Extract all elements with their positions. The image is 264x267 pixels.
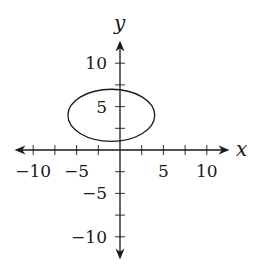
- y-tick-label: −10: [71, 227, 107, 247]
- ellipse-curve: [68, 89, 155, 141]
- y-axis-label: y: [113, 11, 126, 35]
- x-tick-label: −10: [15, 161, 51, 181]
- x-axis-label: x: [236, 137, 247, 161]
- chart: −10−5510 105−5−10 x y: [0, 0, 264, 267]
- x-tick-labels: −10−5510: [15, 161, 217, 181]
- x-tick-label: 5: [158, 161, 169, 181]
- x-tick-label: −5: [64, 161, 89, 181]
- x-tick-label: 10: [196, 161, 218, 181]
- y-tick-label: 5: [96, 97, 107, 117]
- curves: [68, 89, 155, 141]
- y-tick-label: 10: [85, 53, 107, 73]
- y-tick-label: −5: [82, 183, 107, 203]
- axes: [15, 41, 230, 260]
